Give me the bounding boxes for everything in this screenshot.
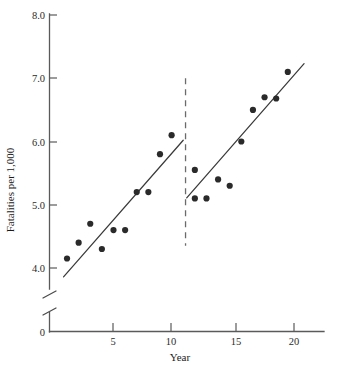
origin-label: 0 xyxy=(40,327,45,338)
scatter-plot-svg: 8.0 7.0 6.0 5.0 4.0 0 Fatalities per 1,0… xyxy=(0,0,342,367)
x-tick-label-10: 10 xyxy=(166,336,177,347)
data-point xyxy=(169,132,175,138)
y-tick-label-7: 7.0 xyxy=(32,73,45,84)
y-tick-label-8: 8.0 xyxy=(32,10,45,21)
data-point xyxy=(238,138,244,144)
data-point xyxy=(87,221,93,227)
data-point xyxy=(227,183,233,189)
data-point xyxy=(64,255,70,261)
x-axis-group xyxy=(50,323,325,332)
data-point xyxy=(273,95,279,101)
data-point xyxy=(99,246,105,252)
data-point xyxy=(122,227,128,233)
trend-line-1 xyxy=(64,140,184,277)
trend-line-2 xyxy=(187,64,304,198)
x-tick-label-20: 20 xyxy=(289,336,300,347)
y-tick-labels: 8.0 7.0 6.0 5.0 4.0 0 xyxy=(32,10,45,338)
y-axis-title: Fatalities per 1,000 xyxy=(4,147,16,232)
y-tick-marks xyxy=(49,15,57,268)
y-tick-label-5: 5.0 xyxy=(32,200,45,211)
data-point xyxy=(145,189,151,195)
y-axis-group xyxy=(43,14,56,332)
trend-line-layer xyxy=(64,64,305,277)
data-point xyxy=(110,227,116,233)
data-point xyxy=(157,151,163,157)
x-axis-title: Year xyxy=(170,351,191,363)
data-point xyxy=(250,107,256,113)
y-tick-label-6: 6.0 xyxy=(32,137,45,148)
chart-figure: 8.0 7.0 6.0 5.0 4.0 0 Fatalities per 1,0… xyxy=(0,0,342,367)
data-point xyxy=(134,189,140,195)
data-points-layer xyxy=(64,69,291,262)
data-point xyxy=(76,240,82,246)
data-point xyxy=(215,176,221,182)
data-point xyxy=(261,94,267,100)
x-tick-label-5: 5 xyxy=(110,336,115,347)
data-point xyxy=(192,195,198,201)
x-tick-label-15: 15 xyxy=(231,336,242,347)
data-point xyxy=(192,167,198,173)
x-tick-labels: 5 10 15 20 xyxy=(110,336,299,347)
y-axis-break-upper xyxy=(43,291,56,298)
data-point xyxy=(285,69,291,75)
y-tick-label-4: 4.0 xyxy=(32,263,45,274)
data-point xyxy=(203,195,209,201)
